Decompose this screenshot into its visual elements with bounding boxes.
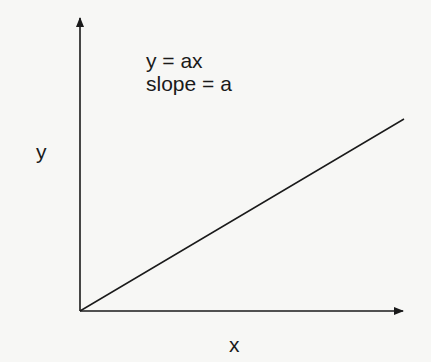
- slope-label: slope = a: [146, 73, 232, 94]
- y-axis-label: y: [36, 141, 47, 162]
- axes-diagram: [0, 0, 431, 362]
- line-y-equals-ax: [80, 119, 404, 311]
- equation-label: y = ax: [146, 50, 203, 71]
- x-axis-label: x: [229, 334, 240, 355]
